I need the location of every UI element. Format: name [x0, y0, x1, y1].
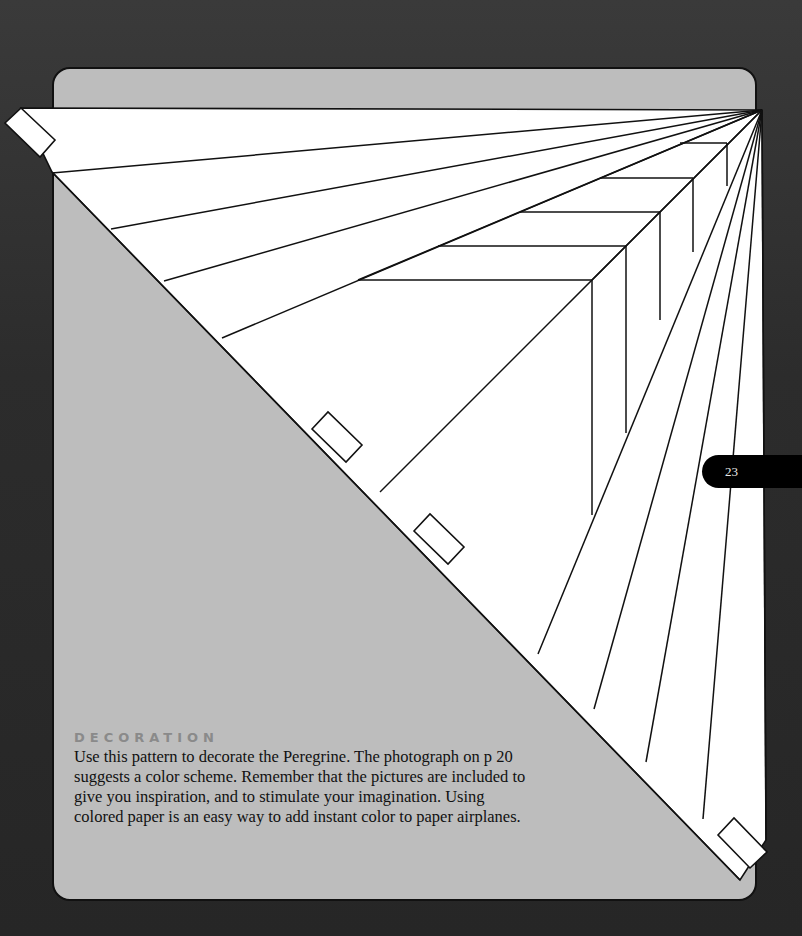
body-line: give you inspiration, and to stimulate y… — [74, 787, 594, 807]
section-heading: DECORATION — [74, 730, 594, 745]
page-number-tab: 23 — [702, 455, 802, 488]
page-number: 23 — [725, 464, 738, 480]
body-line: Use this pattern to decorate the Peregri… — [74, 747, 594, 767]
body-line: colored paper is an easy way to add inst… — [74, 807, 594, 827]
decoration-section: DECORATION Use this pattern to decorate … — [74, 730, 594, 827]
section-body: Use this pattern to decorate the Peregri… — [74, 747, 594, 827]
body-line: suggests a color scheme. Remember that t… — [74, 767, 594, 787]
